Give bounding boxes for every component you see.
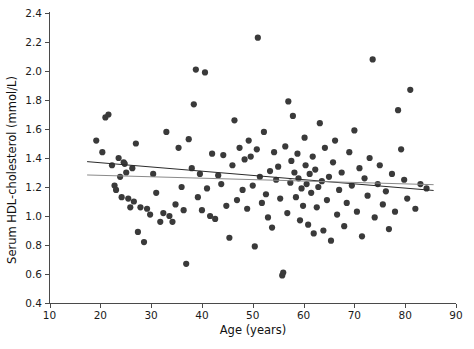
data-point	[294, 151, 300, 157]
data-point	[280, 269, 286, 275]
svg-text:Serum HDL-cholesterol (mmol/L: Serum HDL-cholesterol (mmol/L)	[5, 76, 19, 264]
data-point	[160, 210, 166, 216]
y-tick-label: 1.6	[25, 123, 42, 135]
data-point	[307, 171, 313, 177]
x-tick-label: 90	[449, 309, 462, 321]
data-point	[392, 209, 398, 215]
data-point	[407, 87, 413, 93]
data-point	[153, 190, 159, 196]
data-point	[127, 204, 133, 210]
data-point	[144, 206, 150, 212]
y-axis-ticks: 0.40.60.81.01.21.41.61.82.02.22.4	[25, 7, 49, 309]
y-tick-label: 0.8	[25, 239, 42, 251]
data-point	[277, 196, 283, 202]
data-point	[172, 201, 178, 207]
data-point	[255, 35, 261, 41]
data-point	[122, 161, 128, 167]
data-point	[389, 171, 395, 177]
data-point	[288, 158, 294, 164]
x-tick-label: 70	[348, 309, 361, 321]
data-point	[250, 182, 256, 188]
data-point	[195, 194, 201, 200]
data-point	[336, 187, 342, 193]
data-point	[186, 136, 192, 142]
x-axis-title: Age (years)	[220, 323, 287, 337]
data-point	[412, 206, 418, 212]
data-point	[324, 197, 330, 203]
data-point	[377, 162, 383, 168]
data-point	[125, 196, 131, 202]
y-tick-label: 2.2	[25, 36, 42, 48]
data-point	[398, 146, 404, 152]
data-point	[372, 214, 378, 220]
data-point	[285, 98, 291, 104]
x-tick-label: 30	[144, 309, 157, 321]
y-tick-label: 2.0	[25, 65, 42, 77]
x-axis-ticks: 102030405060708090	[43, 304, 463, 322]
data-point	[290, 113, 296, 119]
data-point	[259, 200, 265, 206]
x-tick-label: 50	[246, 309, 259, 321]
data-point	[314, 204, 320, 210]
data-point	[317, 120, 323, 126]
data-point	[370, 56, 376, 62]
x-tick-label: 10	[43, 309, 56, 321]
data-point	[364, 193, 370, 199]
data-point	[131, 198, 137, 204]
data-point	[328, 238, 334, 244]
y-axis-title: Serum HDL-cholesterol (mmol/L)	[5, 76, 19, 264]
data-point	[269, 225, 275, 231]
data-point	[315, 184, 321, 190]
data-point	[135, 229, 141, 235]
data-point	[404, 196, 410, 202]
data-point	[246, 138, 252, 144]
data-point	[303, 162, 309, 168]
data-point	[113, 187, 119, 193]
data-point	[322, 145, 328, 151]
data-point	[169, 219, 175, 225]
data-point	[297, 217, 303, 223]
data-point	[133, 140, 139, 146]
data-point	[236, 145, 242, 151]
data-point	[257, 174, 263, 180]
data-point	[320, 227, 326, 233]
data-point	[119, 194, 125, 200]
data-point	[137, 204, 143, 210]
x-tick-label: 20	[94, 309, 107, 321]
data-point	[311, 230, 317, 236]
data-point	[339, 169, 345, 175]
svg-text:Age (years): Age (years)	[220, 323, 287, 337]
data-point	[150, 171, 156, 177]
data-point	[263, 191, 269, 197]
data-point	[183, 261, 189, 267]
data-point	[356, 165, 362, 171]
data-point	[252, 243, 258, 249]
data-point	[163, 129, 169, 135]
data-point	[220, 152, 226, 158]
data-point	[304, 181, 310, 187]
data-point	[284, 210, 290, 216]
data-point	[212, 216, 218, 222]
data-point	[344, 200, 350, 206]
data-point	[330, 159, 336, 165]
data-point	[383, 188, 389, 194]
data-point	[293, 194, 299, 200]
data-point	[254, 146, 260, 152]
data-point	[310, 153, 316, 159]
scatter-plot-figure: Serum HDL-cholesterol (mmol/L) Age (year…	[0, 0, 474, 349]
y-tick-label: 1.0	[25, 210, 42, 222]
data-point	[248, 153, 254, 159]
data-point	[218, 181, 224, 187]
data-point	[242, 156, 248, 162]
data-point	[341, 223, 347, 229]
data-point	[141, 239, 147, 245]
data-point	[423, 185, 429, 191]
data-point	[308, 190, 314, 196]
data-point	[312, 167, 318, 173]
data-point	[215, 172, 221, 178]
data-point	[199, 207, 205, 213]
data-point	[93, 138, 99, 144]
data-point	[346, 149, 352, 155]
data-point	[332, 138, 338, 144]
data-point	[305, 222, 311, 228]
